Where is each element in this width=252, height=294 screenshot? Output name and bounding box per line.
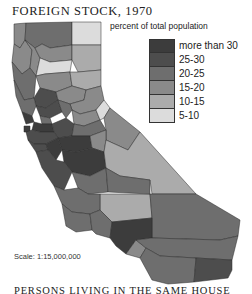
- county-imperial: [194, 258, 232, 282]
- legend-item: 5-10: [149, 109, 238, 123]
- map-subtitle: percent of total population: [110, 21, 208, 31]
- county-lassen: [72, 45, 101, 72]
- legend-swatch: [149, 95, 175, 109]
- legend-swatch: [149, 109, 175, 123]
- legend-item: 20-25: [149, 67, 238, 81]
- map-title: FOREIGN STOCK, 1970: [12, 4, 153, 19]
- legend-swatch: [149, 81, 175, 95]
- legend-label: 20-25: [179, 67, 205, 81]
- legend-item: more than 30: [149, 39, 238, 53]
- scale-label: Scale: 1:15,000,000: [14, 252, 81, 261]
- legend-label: 15-20: [179, 81, 205, 95]
- county-siskiyou: [25, 22, 72, 48]
- legend-label: 25-30: [179, 53, 205, 67]
- legend-swatch: [149, 67, 175, 81]
- county-modoc: [72, 22, 101, 45]
- legend-item: 10-15: [149, 95, 238, 109]
- legend-item: 25-30: [149, 53, 238, 67]
- next-section-title: PERSONS LIVING IN THE SAME HOUSE: [14, 285, 230, 294]
- legend-label: 10-15: [179, 95, 205, 109]
- legend-item: 15-20: [149, 81, 238, 95]
- legend: more than 30 25-30 20-25 15-20 10-15 5-1…: [149, 39, 238, 123]
- legend-swatch: [149, 53, 175, 67]
- legend-label: 5-10: [179, 109, 199, 123]
- county-san-bernardino: [150, 194, 240, 240]
- legend-swatch: [149, 39, 175, 53]
- legend-label: more than 30: [179, 39, 238, 53]
